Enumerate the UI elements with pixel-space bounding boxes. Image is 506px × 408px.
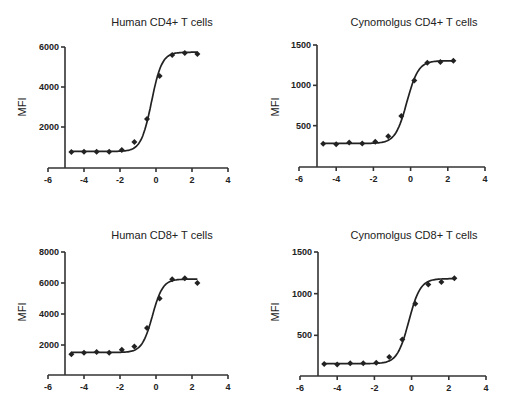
plot-area: 2000400060008000-6-4-2024 (39, 247, 231, 392)
data-point (81, 149, 87, 155)
x-tick-label: -6 (296, 383, 304, 393)
x-tick-label: 0 (153, 382, 158, 392)
y-axis-label: MFI (269, 98, 281, 117)
data-point (451, 275, 457, 281)
figure-canvas: Human CD4+ T cells MFI 200040006000-6-4-… (0, 0, 506, 408)
panel-human-cd8: Human CD8+ T cells MFI 2000400060008000-… (16, 229, 231, 392)
x-tick-label: 2 (189, 382, 194, 392)
fit-curve (71, 279, 197, 352)
y-axis-label: MFI (16, 98, 28, 117)
data-point (360, 360, 366, 366)
y-tick-label: 8000 (39, 247, 59, 257)
y-tick-label: 1500 (292, 247, 312, 257)
y-tick-label: 500 (296, 121, 311, 131)
panel-title: Cynomolgus CD4+ T cells (350, 16, 478, 28)
y-tick-label: 2000 (39, 340, 59, 350)
fit-curve (323, 61, 453, 144)
data-point (182, 275, 188, 281)
panel-title: Cynomolgus CD8+ T cells (350, 229, 478, 241)
y-tick-label: 6000 (39, 278, 59, 288)
y-tick-label: 1000 (291, 80, 311, 90)
data-point (94, 349, 100, 355)
data-point (320, 141, 326, 147)
x-tick-label: -6 (44, 175, 52, 185)
x-tick-label: 0 (409, 383, 414, 393)
y-axis-label: MFI (269, 303, 281, 322)
x-tick-label: 4 (225, 382, 230, 392)
data-point (321, 361, 327, 367)
data-point (437, 59, 443, 65)
data-point (347, 360, 353, 366)
x-tick-label: 0 (408, 174, 413, 184)
x-tick-label: 2 (445, 174, 450, 184)
data-point (81, 350, 87, 356)
x-tick-label: 4 (483, 383, 488, 393)
plot-area: 200040006000-6-4-2024 (39, 42, 231, 185)
x-tick-label: 2 (446, 383, 451, 393)
data-point (94, 149, 100, 155)
x-tick-label: -2 (370, 383, 378, 393)
data-point (68, 149, 74, 155)
x-tick-label: -6 (295, 174, 303, 184)
data-point (346, 140, 352, 146)
data-point (450, 58, 456, 64)
panel-human-cd4: Human CD4+ T cells MFI 200040006000-6-4-… (16, 16, 231, 185)
y-tick-label: 4000 (39, 82, 59, 92)
panel-title: Human CD4+ T cells (111, 16, 213, 28)
data-point (194, 280, 200, 286)
data-point (182, 50, 188, 56)
x-tick-label: -4 (333, 383, 341, 393)
x-tick-label: 4 (482, 174, 487, 184)
y-tick-label: 1500 (291, 40, 311, 50)
y-tick-label: 2000 (39, 122, 59, 132)
x-tick-label: -2 (369, 174, 377, 184)
y-axis-label: MFI (16, 303, 28, 322)
data-point (106, 149, 112, 155)
x-tick-label: -6 (44, 382, 52, 392)
x-tick-label: -4 (80, 175, 88, 185)
data-point (333, 141, 339, 147)
data-point (106, 350, 112, 356)
x-tick-label: 0 (153, 175, 158, 185)
data-point (359, 140, 365, 146)
data-point (373, 360, 379, 366)
data-point (334, 362, 340, 368)
x-tick-label: 4 (225, 175, 230, 185)
y-tick-label: 4000 (39, 309, 59, 319)
x-tick-label: -2 (116, 382, 124, 392)
panel-title: Human CD8+ T cells (111, 229, 213, 241)
fit-curve (71, 52, 197, 151)
x-tick-label: -2 (116, 175, 124, 185)
y-tick-label: 1000 (292, 289, 312, 299)
x-tick-label: -4 (332, 174, 340, 184)
x-tick-label: -4 (80, 382, 88, 392)
panel-cyno-cd8: Cynomolgus CD8+ T cells MFI 50010001500-… (269, 229, 489, 393)
y-tick-label: 6000 (39, 42, 59, 52)
x-tick-label: 2 (189, 175, 194, 185)
plot-area: 50010001500-6-4-2024 (291, 40, 488, 184)
data-point (119, 147, 125, 153)
data-point (131, 139, 137, 145)
fit-curve (324, 279, 454, 364)
panel-cyno-cd4: Cynomolgus CD4+ T cells MFI 50010001500-… (269, 16, 488, 184)
y-tick-label: 500 (297, 330, 312, 340)
plot-area: 50010001500-6-4-2024 (292, 247, 489, 393)
